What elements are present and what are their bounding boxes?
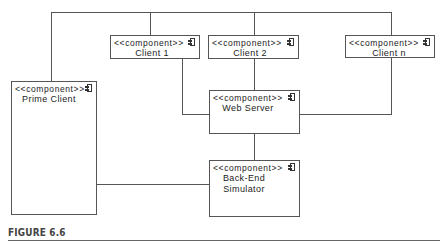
client-n-down-line bbox=[391, 57, 392, 115]
stereotype-label: <<component>> bbox=[114, 38, 184, 48]
figure-caption: FIGURE 6.6 bbox=[8, 226, 66, 238]
component-name: Web Server bbox=[210, 103, 286, 114]
prime-client-to-bus-line bbox=[51, 12, 52, 81]
component-name-line-1: Back-End bbox=[210, 173, 278, 184]
client-1-down-line bbox=[182, 58, 183, 115]
client-1-to-web-server-line bbox=[182, 114, 209, 115]
prime-client-to-back-end-line bbox=[97, 184, 209, 185]
component-icon bbox=[425, 38, 430, 46]
component-prime-client[interactable]: <<component>> Prime Client bbox=[11, 81, 97, 215]
component-icon bbox=[87, 84, 92, 92]
stereotype-label: <<component>> bbox=[212, 38, 282, 48]
stereotype-label: <<component>> bbox=[213, 163, 283, 173]
component-name: Prime Client bbox=[12, 94, 86, 105]
client-2-to-web-server-line bbox=[254, 58, 255, 90]
component-icon bbox=[290, 93, 295, 101]
component-name-line-2: Simulator bbox=[210, 184, 278, 195]
component-back-end-simulator[interactable]: <<component>> Back-End Simulator bbox=[209, 160, 300, 217]
component-name: Client 2 bbox=[209, 48, 291, 59]
component-client-2[interactable]: <<component>> Client 2 bbox=[208, 35, 299, 59]
client-n-to-web-server-line bbox=[299, 114, 391, 115]
caption-divider bbox=[8, 240, 440, 241]
component-web-server[interactable]: <<component>> Web Server bbox=[209, 90, 300, 134]
component-icon bbox=[289, 38, 294, 46]
client-n-to-bus-line bbox=[391, 12, 392, 35]
web-server-to-back-end-line bbox=[254, 133, 255, 160]
client-1-to-bus-line bbox=[150, 12, 151, 35]
component-client-n[interactable]: <<component>> Client n bbox=[345, 35, 435, 58]
component-icon bbox=[190, 38, 195, 46]
component-client-1[interactable]: <<component>> Client 1 bbox=[110, 35, 200, 59]
bus-line-top bbox=[51, 12, 392, 13]
component-name: Client 1 bbox=[111, 48, 193, 59]
stereotype-label: <<component>> bbox=[15, 84, 85, 94]
component-name: Client n bbox=[346, 48, 432, 59]
stereotype-label: <<component>> bbox=[349, 38, 419, 48]
stereotype-label: <<component>> bbox=[213, 93, 283, 103]
client-2-to-bus-line bbox=[254, 12, 255, 35]
component-icon bbox=[290, 163, 295, 171]
